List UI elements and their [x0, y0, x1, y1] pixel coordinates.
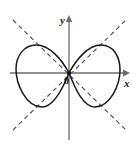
- y-axis-arrow-icon: [66, 15, 72, 22]
- lemniscate-right-lobe: [69, 45, 120, 107]
- lemniscate-figure: y x 0: [0, 0, 137, 148]
- x-axis-label: x: [124, 78, 130, 89]
- figure-canvas: [0, 0, 137, 148]
- x-axis-arrow-icon: [123, 70, 130, 77]
- origin-label: 0: [64, 76, 69, 86]
- lemniscate-left-lobe: [16, 45, 69, 107]
- y-axis-label: y: [60, 15, 65, 26]
